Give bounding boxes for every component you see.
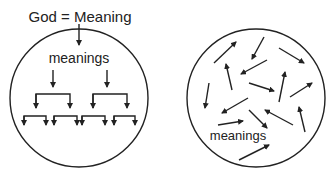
scatter-arrow bbox=[249, 110, 267, 128]
right-meanings-label: meanings bbox=[210, 128, 267, 143]
scatter-arrow bbox=[222, 98, 248, 113]
branch-l3-4 bbox=[114, 116, 135, 125]
scatter-arrow bbox=[205, 83, 209, 108]
scatter-arrow bbox=[252, 37, 264, 59]
right-panel-scatter bbox=[187, 29, 325, 167]
left-title: God = Meaning bbox=[29, 8, 132, 25]
scatter-arrow bbox=[299, 107, 305, 132]
left-panel-hierarchy bbox=[10, 24, 148, 167]
left-meanings-label: meanings bbox=[49, 50, 110, 66]
scatter-arrow bbox=[239, 145, 269, 160]
branch-l3-3 bbox=[82, 116, 105, 125]
scatter-arrow bbox=[279, 72, 285, 102]
branch-l2-left bbox=[36, 94, 70, 108]
branch-l3-1 bbox=[24, 116, 46, 125]
scatter-arrow bbox=[265, 110, 293, 125]
scatter-arrow bbox=[241, 60, 267, 74]
branch-l2-right bbox=[93, 94, 127, 108]
right-circle bbox=[187, 29, 325, 167]
meaning-diagram: God = Meaning meanings meanings bbox=[0, 0, 332, 178]
scatter-arrow bbox=[214, 42, 236, 63]
scatter-arrow bbox=[290, 83, 312, 97]
branch-l3-2 bbox=[54, 116, 77, 125]
scatter-arrow bbox=[226, 64, 232, 90]
scatter-arrow bbox=[249, 83, 274, 91]
scatter-arrow bbox=[218, 121, 243, 125]
scatter-arrow bbox=[279, 48, 304, 63]
